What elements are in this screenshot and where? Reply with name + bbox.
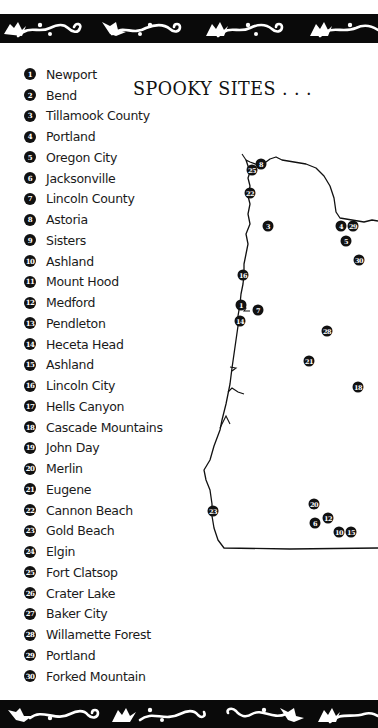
map-marker: 14 xyxy=(235,316,246,327)
map-marker: 25 xyxy=(247,165,258,176)
scroll-ornament-icon xyxy=(0,700,378,728)
map-marker: 15 xyxy=(346,527,357,538)
map-marker: 18 xyxy=(353,382,364,393)
bottom-ornamental-banner xyxy=(0,700,378,728)
map-marker: 20 xyxy=(309,499,320,510)
map-marker: 29 xyxy=(348,221,359,232)
map-marker: 21 xyxy=(304,356,315,367)
map-marker: 1 xyxy=(236,300,247,311)
map-marker: 3 xyxy=(263,221,274,232)
map-marker: 10 xyxy=(334,527,345,538)
map-marker: 5 xyxy=(341,236,352,247)
map-marker: 12 xyxy=(323,513,334,524)
map-marker: 7 xyxy=(253,305,264,316)
oregon-outline xyxy=(204,157,378,549)
map-marker: 16 xyxy=(238,270,249,281)
map-marker: 30 xyxy=(354,255,365,266)
map-marker: 23 xyxy=(208,506,219,517)
map-marker: 22 xyxy=(245,188,256,199)
oregon-map xyxy=(0,0,378,728)
map-marker: 28 xyxy=(322,326,333,337)
map-marker: 4 xyxy=(336,221,347,232)
map-marker: 6 xyxy=(310,518,321,529)
